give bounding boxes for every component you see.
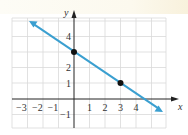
x-tick-label: 1 xyxy=(87,102,92,113)
point-0-3 xyxy=(71,49,77,55)
x-tick-label: 4 xyxy=(134,102,139,113)
y-tick-label: −1 xyxy=(60,109,71,120)
y-axis-label: y xyxy=(63,7,69,18)
y-tick-label: 4 xyxy=(66,31,71,42)
y-tick-label: 1 xyxy=(66,78,71,89)
x-tick-label: −2 xyxy=(32,102,43,113)
x-tick-label: 2 xyxy=(103,102,108,113)
point-3-1 xyxy=(118,80,124,86)
y-axis-arrow-icon xyxy=(72,10,77,18)
y-tick-label: 2 xyxy=(66,62,71,73)
x-tick-label: 3 xyxy=(118,102,123,113)
x-tick-label: −3 xyxy=(16,102,27,113)
x-axis-label: x xyxy=(177,101,183,112)
x-tick-label: −1 xyxy=(48,102,59,113)
coordinate-plane: y x −3 −2 −1 1 2 3 4 4 2 1 −1 xyxy=(0,0,188,135)
